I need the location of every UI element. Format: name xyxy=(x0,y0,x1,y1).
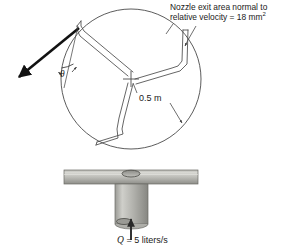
nozzle-exit-area-exponent: 2 xyxy=(262,11,265,17)
nozzle-exit-area-line-1: Nozzle exit area normal to xyxy=(170,2,267,12)
sprinkler-figure: Nozzle exit area normal to relative velo… xyxy=(0,0,285,252)
figure-drawing xyxy=(0,0,285,252)
bar-top-opening xyxy=(122,170,140,177)
nozzle-exit-area-label: Nozzle exit area normal to relative velo… xyxy=(170,3,267,23)
sprinkler-arm-upper-left xyxy=(77,21,133,76)
nozzle-label-leader xyxy=(166,24,196,46)
radius-dimension-label: 0.5 m xyxy=(139,93,162,104)
theta-angle-label: θ xyxy=(60,69,65,80)
sprinkler-arms-group xyxy=(77,21,188,145)
sprinkler-arm-lower xyxy=(96,83,133,145)
sprinkler-arm-upper-right xyxy=(135,30,188,84)
flow-rate-value: = 5 liters/s xyxy=(126,235,167,245)
sprinkler-bar-side-view xyxy=(64,170,198,184)
volumetric-flow-label: Q = 5 liters/s xyxy=(117,235,168,246)
nozzle-exit-area-line-2: relative velocity = 18 mm xyxy=(170,12,262,22)
pipe-bottom-opening xyxy=(117,219,132,225)
flow-rate-symbol: Q xyxy=(117,235,124,245)
relative-velocity-arrow xyxy=(19,28,79,77)
